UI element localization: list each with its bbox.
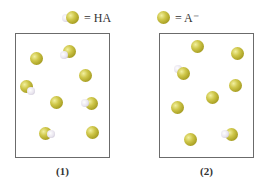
a-minus-ion-icon (184, 133, 198, 147)
panel-1-label: (1) (56, 165, 69, 177)
ha-molecule-icon (63, 45, 77, 59)
a-minus-ion-icon (157, 11, 171, 25)
legend-ha: = HA (62, 10, 111, 26)
ha-molecule-icon (20, 80, 34, 94)
ha-molecule-icon (85, 97, 99, 111)
legend-a-minus-label: = A⁻ (175, 11, 199, 26)
a-minus-ion-icon (191, 40, 205, 54)
ha-molecule-icon (177, 67, 191, 81)
legend-ha-label: = HA (84, 11, 111, 26)
a-minus-ion-icon (79, 69, 93, 83)
legend-a-minus: = A⁻ (157, 10, 199, 26)
ha-molecule-icon (225, 128, 239, 142)
a-minus-ion-icon (50, 96, 64, 110)
panel-2-label: (2) (200, 165, 213, 177)
a-minus-ion-icon (231, 47, 245, 61)
ha-molecule-icon (39, 127, 53, 141)
a-minus-ion-icon (229, 79, 243, 93)
a-minus-ion-icon (171, 101, 185, 115)
a-minus-ion-icon (86, 126, 100, 140)
a-minus-ion-icon (30, 52, 44, 66)
a-minus-ion-icon (206, 91, 220, 105)
ha-molecule-icon (62, 11, 80, 25)
